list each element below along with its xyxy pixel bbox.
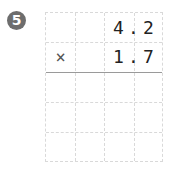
product-line — [46, 72, 162, 73]
multiplier-digit: 7 — [134, 42, 163, 72]
multiplicand-digit: 2 — [134, 13, 163, 43]
grid-row-divider — [46, 102, 162, 103]
grid-row-divider — [46, 132, 162, 133]
multiply-operator: × — [46, 42, 75, 72]
grid-column-divider — [75, 13, 76, 161]
problem-number-badge: 5 — [7, 11, 26, 30]
multiplication-grid: 4 . 2 × 1 . 7 — [45, 12, 163, 162]
